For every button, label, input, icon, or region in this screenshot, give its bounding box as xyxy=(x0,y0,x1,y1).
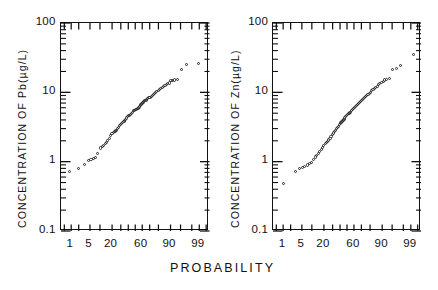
x-axis-title: PROBABILITY xyxy=(170,262,275,275)
data-point xyxy=(176,78,179,81)
data-point xyxy=(412,53,415,56)
data-point xyxy=(77,167,80,170)
panel-zn: CONCENTRATION OF Zn(µg/L) 1001010.1 1520… xyxy=(219,0,438,290)
data-point xyxy=(294,170,297,173)
scatter-points-zn xyxy=(273,23,419,229)
data-point xyxy=(395,67,398,70)
x-tick-label-zn-2: 20 xyxy=(309,238,337,250)
y-tick-label-pb-0: 100 xyxy=(36,16,56,28)
x-tick-label-pb-4: 90 xyxy=(155,238,183,250)
y-tick-label-zn-3: 0.1 xyxy=(251,224,268,236)
data-point xyxy=(68,170,71,173)
y-tick-label-pb-1: 10 xyxy=(42,85,55,97)
data-point xyxy=(399,64,402,67)
figure-probability-plots: CONCENTRATION OF Pb(µg/L) 1001010.1 1520… xyxy=(0,0,438,290)
y-tick-label-zn-2: 1 xyxy=(261,154,268,166)
scatter-points-pb xyxy=(61,23,208,229)
y-tick-label-pb-2: 1 xyxy=(49,154,56,166)
x-tick-label-pb-3: 60 xyxy=(127,238,155,250)
data-point xyxy=(391,68,394,71)
plot-frame-zn xyxy=(272,22,420,230)
panel-pb: CONCENTRATION OF Pb(µg/L) 1001010.1 1520… xyxy=(0,0,219,290)
y-axis-title-zn: CONCENTRATION OF Zn(µg/L) xyxy=(230,49,241,228)
y-tick-label-zn-1: 10 xyxy=(255,85,268,97)
data-point xyxy=(83,163,86,166)
x-tick-label-pb-2: 20 xyxy=(97,238,125,250)
plot-frame-pb xyxy=(60,22,209,230)
data-point xyxy=(310,161,313,164)
data-point xyxy=(197,62,200,65)
data-point xyxy=(388,77,391,80)
data-point xyxy=(282,182,285,185)
y-tick-label-zn-0: 100 xyxy=(248,16,268,28)
x-tick-label-zn-5: 99 xyxy=(396,238,424,250)
y-tick-label-pb-3: 0.1 xyxy=(39,224,56,236)
data-point xyxy=(312,158,315,161)
data-point xyxy=(108,137,111,140)
x-tick-label-zn-3: 60 xyxy=(339,238,367,250)
data-point xyxy=(94,156,97,159)
data-point xyxy=(96,152,99,155)
data-point xyxy=(180,68,183,71)
data-point xyxy=(185,63,188,66)
x-tick-label-zn-4: 90 xyxy=(367,238,395,250)
x-tick-label-pb-5: 99 xyxy=(184,238,212,250)
y-axis-title-pb: CONCENTRATION OF Pb(µg/L) xyxy=(17,49,28,228)
